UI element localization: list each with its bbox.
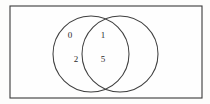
element-label-left-only-first: 0 bbox=[64, 31, 76, 40]
element-label-intersection-first: 1 bbox=[97, 31, 109, 40]
element-label-intersection-second: 5 bbox=[97, 55, 109, 64]
venn-diagram-figure: 0 2 1 5 bbox=[0, 0, 210, 104]
element-label-left-only-second: 2 bbox=[70, 55, 82, 64]
universal-set-rectangle bbox=[10, 6, 202, 98]
venn-diagram-canvas bbox=[0, 0, 210, 104]
